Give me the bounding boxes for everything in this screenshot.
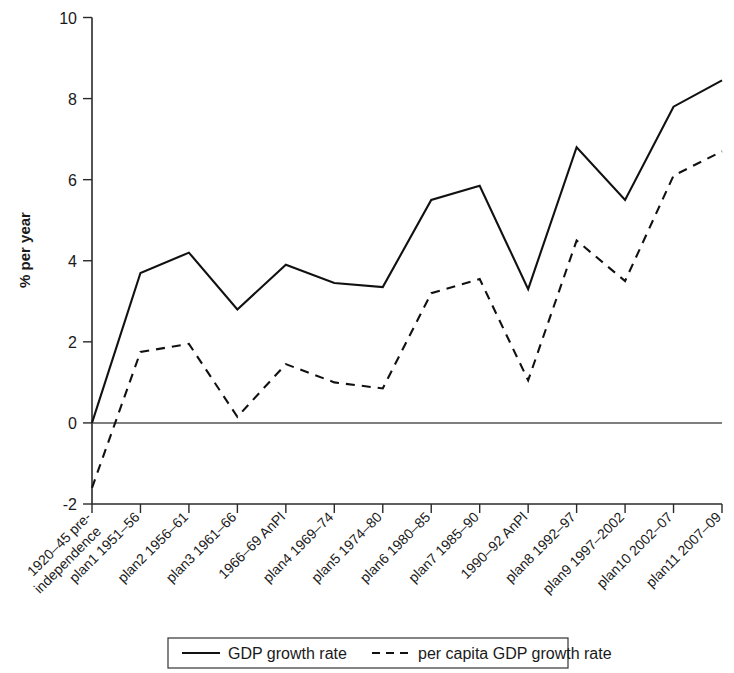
y-tick-label: 0	[68, 415, 77, 432]
gdp-growth-line-chart: -20246810 1920–45 pre-independenceplan1 …	[0, 0, 734, 673]
data-series-group	[92, 80, 722, 487]
x-tick-labels: 1920–45 pre-independenceplan1 1951–56pla…	[24, 509, 724, 597]
y-tick-label: 2	[68, 334, 77, 351]
x-axis	[92, 504, 722, 513]
chart-page: -20246810 1920–45 pre-independenceplan1 …	[0, 0, 734, 673]
y-tick-label: 4	[68, 253, 77, 270]
chart-legend: GDP growth rateper capita GDP growth rat…	[168, 638, 612, 668]
y-axis: -20246810	[59, 10, 92, 514]
y-tick-label: 10	[59, 10, 77, 27]
y-tick-label: 6	[68, 172, 77, 189]
y-axis-title: % per year	[16, 212, 33, 288]
legend-label-1: GDP growth rate	[228, 645, 347, 662]
y-axis-title-text: % per year	[16, 212, 33, 288]
series-line-1	[92, 80, 722, 423]
legend-label-2: per capita GDP growth rate	[418, 645, 612, 662]
y-tick-label: 8	[68, 91, 77, 108]
y-tick-label: -2	[63, 496, 77, 513]
series-line-2	[92, 151, 722, 487]
x-tick-label: plan9 1997–2002	[539, 509, 627, 597]
